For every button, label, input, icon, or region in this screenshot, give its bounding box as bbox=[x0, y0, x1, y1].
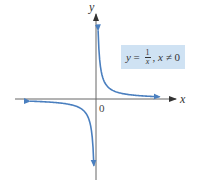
x-axis-label: x bbox=[179, 92, 186, 106]
equation-equals: = bbox=[131, 51, 143, 63]
y-axis-label: y bbox=[88, 0, 95, 14]
equation-fraction: 1 x bbox=[145, 49, 151, 66]
fraction-denominator: x bbox=[146, 58, 150, 66]
condition-value: 0 bbox=[175, 51, 181, 63]
curve-branch-negative bbox=[30, 101, 94, 165]
origin-label: 0 bbox=[99, 102, 105, 114]
equation-label: y = 1 x , x ≠ 0 bbox=[121, 45, 185, 69]
reciprocal-graph: x y 0 bbox=[0, 0, 199, 182]
